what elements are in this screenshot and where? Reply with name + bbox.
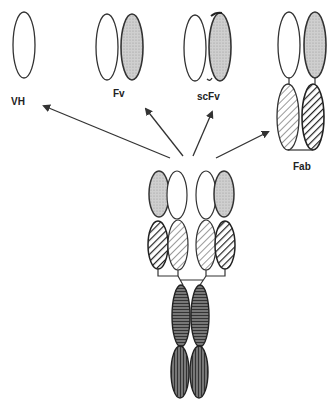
- ab-ch2-left: [172, 285, 190, 347]
- fragment-fab: [277, 12, 326, 150]
- fab-ch1-domain: [302, 84, 324, 150]
- label-vh: VH: [11, 96, 25, 107]
- ab-ch3-right: [190, 346, 208, 398]
- fragment-scfv: [184, 13, 231, 81]
- ab-ch3-left: [171, 346, 189, 398]
- fab-cl-domain: [277, 84, 299, 150]
- ab-vl-left: [167, 171, 187, 219]
- fv-vl-domain: [96, 14, 118, 80]
- arrow-to-fab: [216, 132, 268, 158]
- vh-domain: [13, 12, 35, 78]
- label-fab: Fab: [293, 161, 311, 172]
- whole-antibody: [148, 171, 235, 398]
- label-fv: Fv: [113, 88, 125, 99]
- ab-vh-right: [214, 171, 234, 217]
- fragment-vh: [13, 12, 35, 78]
- ab-hinge-center: [178, 276, 206, 285]
- fv-vh-domain: [121, 14, 143, 80]
- arrow-to-fv: [146, 109, 183, 156]
- arrow-to-scfv: [193, 112, 212, 156]
- arrow-to-vh: [44, 106, 170, 158]
- ab-ch2-right: [191, 285, 209, 347]
- scfv-linker: [207, 78, 212, 80]
- fab-vl-domain: [278, 12, 300, 78]
- fragment-fv: [96, 14, 143, 80]
- ab-ch1-left: [148, 221, 168, 269]
- ab-vl-right: [196, 171, 216, 219]
- fab-vh-domain: [304, 12, 326, 78]
- scfv-vh-domain: [209, 13, 231, 81]
- ab-vh-left: [149, 171, 169, 217]
- ab-ch1-right: [215, 221, 235, 269]
- ab-hinge-right: [206, 269, 225, 276]
- scfv-vl-domain: [184, 15, 206, 81]
- ab-cl-right: [196, 220, 216, 270]
- ab-hinge-left: [158, 269, 178, 276]
- label-scfv: scFv: [197, 91, 220, 102]
- ab-cl-left: [168, 220, 188, 270]
- arrows: [44, 106, 268, 158]
- antibody-diagram: [0, 0, 336, 399]
